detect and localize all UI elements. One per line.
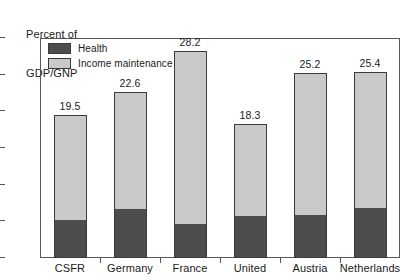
stacked-bar[interactable]: [114, 92, 147, 258]
stacked-bar[interactable]: [54, 115, 87, 258]
health-swatch: [48, 43, 71, 54]
legend-item[interactable]: Income maintenance: [48, 57, 198, 70]
bar-segment-health[interactable]: [354, 208, 387, 258]
y-axis-tick-mark: [0, 37, 5, 38]
legend-item-label: Health: [78, 43, 108, 54]
legend-item[interactable]: Health: [48, 42, 198, 55]
y-axis-tick-mark: [0, 110, 5, 111]
bar-group[interactable]: 25.2: [294, 38, 327, 258]
bar-segment-income-maintenance[interactable]: [54, 115, 87, 220]
y-axis-tick-mark: [0, 184, 5, 185]
bar-segment-health[interactable]: [54, 220, 87, 258]
bar-segment-income-maintenance[interactable]: [234, 124, 267, 216]
stacked-bar[interactable]: [174, 51, 207, 258]
bar-segment-income-maintenance[interactable]: [354, 72, 387, 208]
bar-value-label: 18.3: [220, 109, 280, 121]
y-axis-tick-mark: [0, 147, 5, 148]
stacked-bar-chart: Percent of GDP/GNP 051015202530 19.522.6…: [0, 0, 419, 280]
bar-value-label: 25.2: [280, 58, 340, 70]
stacked-bar[interactable]: [294, 73, 327, 258]
chart-legend: HealthIncome maintenance: [48, 42, 198, 72]
y-axis-tick-mark: [0, 74, 5, 75]
bar-segment-health[interactable]: [174, 224, 207, 258]
bar-value-label: 19.5: [40, 100, 100, 112]
legend-item-label: Income maintenance: [78, 58, 173, 69]
x-axis-label-netherlands: Netherlands: [325, 262, 415, 274]
bar-group[interactable]: 25.4: [354, 38, 387, 258]
x-axis-labels: CSFRGermanyFranceUnitedAustriaNetherland…: [40, 262, 400, 280]
y-axis-tick-mark: [0, 220, 5, 221]
bar-segment-health[interactable]: [294, 215, 327, 258]
stacked-bar[interactable]: [234, 124, 267, 258]
y-axis: 051015202530: [0, 0, 40, 280]
bar-segment-health[interactable]: [234, 216, 267, 258]
bar-segment-health[interactable]: [114, 209, 147, 258]
bar-segment-income-maintenance[interactable]: [114, 92, 147, 209]
bar-value-label: 22.6: [100, 77, 160, 89]
bar-segment-income-maintenance[interactable]: [294, 73, 327, 215]
bar-segment-income-maintenance[interactable]: [174, 51, 207, 223]
bar-group[interactable]: 18.3: [234, 38, 267, 258]
bar-value-label: 25.4: [340, 57, 400, 69]
stacked-bar[interactable]: [354, 72, 387, 258]
income-maintenance-swatch: [48, 58, 71, 69]
y-axis-tick-mark: [0, 257, 5, 258]
